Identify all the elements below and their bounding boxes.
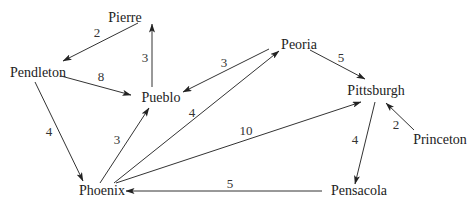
edge-weight-pensacola-phoenix: 5 [227,176,234,191]
edge-phoenix-to-pittsburgh-arrow [116,102,361,183]
node-pierre: Pierre [108,10,141,25]
edge-pendleton-to-pueblo-arrow [61,76,131,95]
edge-princeton-to-pittsburgh-arrow [386,103,414,130]
edge-weight-phoenix-peoria: 4 [189,105,196,120]
edge-pierre-to-pendleton-arrow [63,23,138,61]
edge-weight-pendleton-pueblo: 8 [98,69,105,84]
node-princeton: Princeton [413,132,467,147]
edge-weight-pendleton-phoenix: 4 [46,124,53,139]
edge-weight-pierre-pendleton: 2 [94,25,101,40]
edge-weight-phoenix-pueblo: 3 [114,132,121,147]
graph-diagram: 2833543410425 PierrePendletonPuebloPeori… [0,0,469,208]
edge-weight-pittsburgh-pensacola: 4 [352,132,359,147]
node-peoria: Peoria [281,37,318,52]
node-pendleton: Pendleton [10,65,66,80]
edge-weight-peoria-pueblo: 3 [221,55,228,70]
node-pueblo: Pueblo [142,90,181,105]
edge-weights-layer: 2833543410425 [46,25,400,191]
node-pittsburgh: Pittsburgh [347,83,404,98]
edge-phoenix-to-peoria-arrow [114,51,279,183]
edge-phoenix-to-pueblo-arrow [100,108,149,183]
edge-weight-peoria-pittsburgh: 5 [338,50,345,65]
edge-weight-princeton-pittsburgh: 2 [393,117,400,132]
nodes-layer: PierrePendletonPuebloPeoriaPittsburghPri… [10,10,467,198]
edge-weight-phoenix-pittsburgh: 10 [240,123,253,138]
edge-weight-pueblo-pierre: 3 [142,50,149,65]
edge-pendleton-to-phoenix-arrow [35,82,83,181]
node-phoenix: Phoenix [79,183,125,198]
node-pensacola: Pensacola [331,183,388,198]
edges-layer [35,23,414,191]
